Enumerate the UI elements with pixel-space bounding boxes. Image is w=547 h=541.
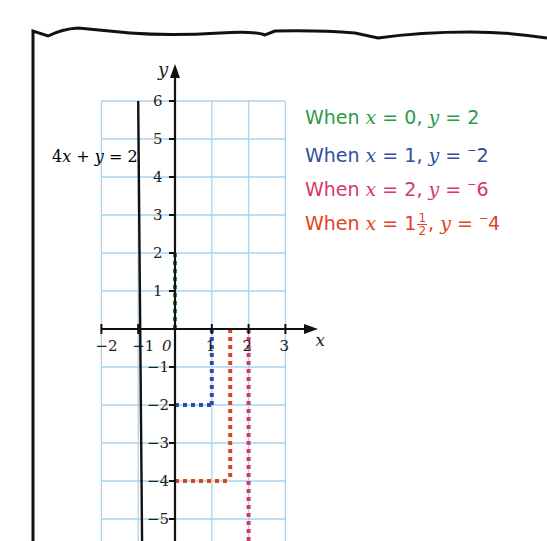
y-axis-label: y	[157, 59, 169, 80]
plus: +	[71, 147, 95, 166]
equals-2: = 2	[104, 147, 138, 166]
graph-canvas: −2−10123654321−1−2−3−4−5xy	[0, 0, 547, 541]
y-tick-label: 6	[153, 92, 163, 110]
statements-list: When x = 0, y = 2When x = 1, y = −2When …	[305, 100, 500, 236]
y-tick-label: 1	[153, 282, 163, 300]
x-tick-label: −2	[95, 337, 117, 355]
y-tick-label: −1	[147, 358, 169, 376]
x-tick-label: 2	[243, 337, 253, 355]
y-tick-label: 5	[153, 130, 163, 148]
line-equation-label: 4x + y = 2	[52, 147, 138, 166]
x-tick-label: 0	[162, 337, 172, 355]
y-tick-label: 4	[153, 168, 163, 186]
fraction-half: 12	[417, 212, 427, 237]
statement-2: When x = 1, y = −2	[305, 134, 500, 168]
coef: 4	[52, 147, 62, 166]
statement-1: When x = 0, y = 2	[305, 100, 500, 134]
x-tick-label: 1	[206, 337, 216, 355]
y-arrow-icon	[170, 64, 180, 78]
x-axis-label: x	[315, 330, 325, 350]
statement-4: When x = 112, y = −4	[305, 202, 500, 236]
statement-3: When x = 2, y = −6	[305, 168, 500, 202]
y-var: y	[95, 147, 104, 166]
x-tick-label: −1	[132, 337, 154, 355]
y-tick-label: −4	[147, 472, 169, 490]
y-tick-label: 3	[153, 206, 163, 224]
x-tick-label: 3	[279, 337, 289, 355]
x-var: x	[62, 147, 71, 166]
y-tick-label: 2	[153, 244, 163, 262]
y-tick-label: −3	[147, 434, 169, 452]
y-tick-label: −5	[147, 510, 169, 528]
y-tick-label: −2	[147, 396, 169, 414]
grid	[101, 101, 285, 541]
tick-labels: −2−10123654321−1−2−3−4−5xy	[95, 59, 325, 528]
